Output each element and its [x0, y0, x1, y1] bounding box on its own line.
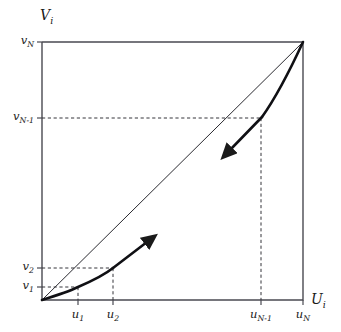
upper-branch-curve: [262, 42, 303, 117]
figure-container: Vi Ui vN vN-1 v2 v1 u1 u2 uN-1 uN: [0, 0, 341, 332]
y-axis-title-base: V: [40, 7, 50, 23]
x-tick-sub: N-1: [257, 314, 271, 323]
y-tick-label-v-N-1: vN-1: [13, 111, 34, 125]
identity-diagonal-line: [42, 42, 303, 300]
upper-branch-arrow: [230, 117, 262, 150]
x-axis-title: Ui: [311, 292, 326, 309]
y-tick-sub: 1: [29, 285, 34, 294]
x-tick-sub: 2: [114, 314, 119, 323]
plot-canvas: [0, 0, 341, 332]
y-tick-sub: N: [27, 40, 34, 49]
x-tick-label-u-2: u2: [107, 309, 119, 323]
x-axis-title-base: U: [311, 291, 323, 307]
y-tick-label-v-1: v1: [23, 280, 34, 294]
x-axis-title-sub: i: [323, 299, 326, 310]
x-tick-label-u-N-1: uN-1: [250, 309, 272, 323]
x-tick-sub: N: [303, 314, 310, 323]
y-tick-sub: N-1: [20, 116, 34, 125]
guide-lines: [42, 118, 261, 300]
y-tick-label-v-2: v2: [23, 261, 34, 275]
y-axis-title: Vi: [40, 8, 53, 25]
y-axis-title-sub: i: [50, 15, 53, 26]
x-tick-label-u-N: uN: [296, 309, 310, 323]
y-tick-sub: 2: [29, 266, 34, 275]
x-tick-sub: 1: [79, 314, 84, 323]
y-axis-ticks: [37, 42, 42, 287]
lower-branch-arrow: [113, 242, 147, 268]
x-axis-ticks: [78, 300, 303, 305]
x-tick-label-u-1: u1: [72, 309, 84, 323]
y-tick-label-v-N: vN: [21, 35, 34, 49]
